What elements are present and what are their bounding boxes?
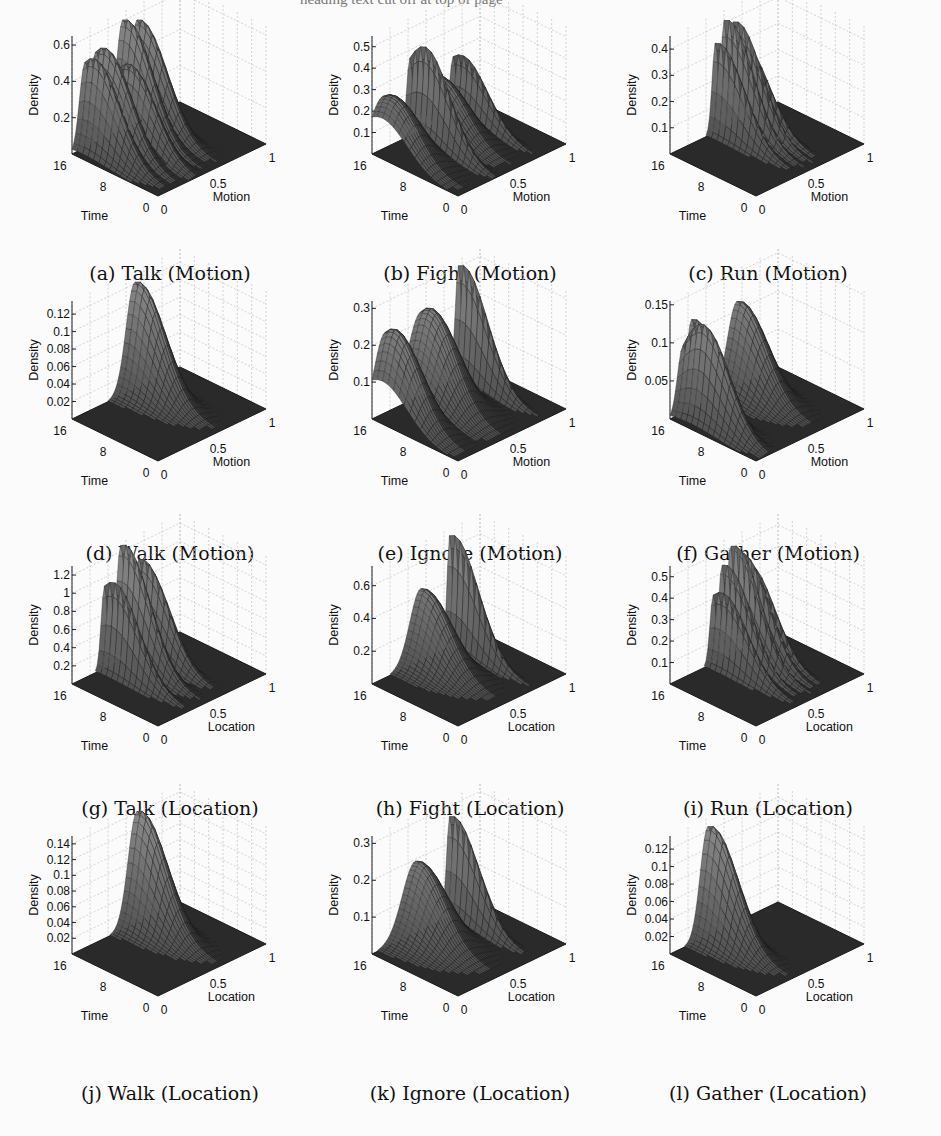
x-tick-label: 0.5 <box>510 707 527 721</box>
x-tick-label: 0 <box>461 203 468 217</box>
z-axis-label: Density <box>327 603 341 645</box>
z-tick-label: 0.2 <box>353 104 370 118</box>
z-tick-label: 0.14 <box>47 837 71 851</box>
x-tick-label: 0.5 <box>808 177 825 191</box>
subplot-b: 0.10.20.30.40.5Density00.51Motion0816Tim… <box>320 30 620 300</box>
z-tick-label: 0.15 <box>645 298 669 312</box>
time-tick-label: 0 <box>443 1001 450 1015</box>
subplot-f: 0.050.10.15Density00.51Motion0816Time(f)… <box>618 295 918 565</box>
z-tick-label: 0.3 <box>353 83 370 97</box>
z-tick-label: 0.6 <box>53 623 70 637</box>
x-tick-label: 0.5 <box>210 707 227 721</box>
header-text: heading text cut off at top of page <box>300 0 503 8</box>
x-tick-label: 0 <box>759 203 766 217</box>
time-axis-label: Time <box>381 209 408 223</box>
x-tick-label: 0.5 <box>510 977 527 991</box>
subplot-h: 0.20.40.6Density00.51Location0816Time(h)… <box>320 560 620 830</box>
z-axis-label: Density <box>625 603 639 645</box>
time-axis-label: Time <box>679 739 706 753</box>
x-axis-label: Motion <box>213 455 251 469</box>
z-tick-label: 0.3 <box>353 301 370 315</box>
x-tick-label: 0 <box>161 468 168 482</box>
x-tick-label: 1 <box>867 951 874 965</box>
z-tick-label: 0.1 <box>651 860 668 874</box>
time-tick-label: 8 <box>400 180 407 194</box>
time-tick-label: 0 <box>741 1001 748 1015</box>
time-tick-label: 16 <box>353 959 367 973</box>
subplot-g: 0.20.40.60.811.2Density00.51Location0816… <box>20 560 320 830</box>
time-axis-label: Time <box>381 1009 408 1023</box>
time-axis-label: Time <box>81 474 108 488</box>
x-tick-label: 1 <box>569 681 576 695</box>
z-tick-label: 0.12 <box>47 853 71 867</box>
subplot-l: 0.020.040.060.080.10.12Density00.51Locat… <box>618 830 918 1100</box>
time-axis-label: Time <box>679 209 706 223</box>
time-tick-label: 0 <box>443 731 450 745</box>
z-tick-label: 0.08 <box>47 884 71 898</box>
subplot-caption: (l) Gather (Location) <box>618 1082 918 1104</box>
time-tick-label: 0 <box>741 466 748 480</box>
z-tick-label: 0.6 <box>353 579 370 593</box>
time-tick-label: 8 <box>100 445 107 459</box>
x-axis-label: Location <box>508 990 555 1004</box>
z-tick-label: 0.12 <box>645 842 669 856</box>
z-axis-label: Density <box>27 338 41 380</box>
time-tick-label: 8 <box>698 980 705 994</box>
time-tick-label: 8 <box>400 445 407 459</box>
surface-plot: 0.050.10.15Density00.51Motion0816Time <box>618 295 918 525</box>
time-axis-label: Time <box>679 474 706 488</box>
time-tick-label: 16 <box>53 424 67 438</box>
z-tick-label: 0.06 <box>47 360 71 374</box>
x-tick-label: 0 <box>461 1003 468 1017</box>
z-tick-label: 0.04 <box>47 916 71 930</box>
z-tick-label: 0.6 <box>53 38 70 52</box>
subplot-caption: (i) Run (Location) <box>618 797 918 819</box>
x-axis-label: Motion <box>513 455 551 469</box>
x-tick-label: 1 <box>269 416 276 430</box>
x-tick-label: 0 <box>759 1003 766 1017</box>
x-axis-label: Location <box>208 990 255 1004</box>
z-tick-label: 0.4 <box>651 42 668 56</box>
time-tick-label: 0 <box>143 731 150 745</box>
x-tick-label: 1 <box>867 416 874 430</box>
time-tick-label: 16 <box>651 689 665 703</box>
subplot-a: 0.20.40.6Density00.51Motion0816Time(a) T… <box>20 30 320 300</box>
z-axis-label: Density <box>327 338 341 380</box>
x-tick-label: 0.5 <box>210 442 227 456</box>
time-tick-label: 16 <box>53 689 67 703</box>
z-tick-label: 0.1 <box>651 656 668 670</box>
x-tick-label: 0 <box>461 468 468 482</box>
time-tick-label: 0 <box>143 1001 150 1015</box>
z-tick-label: 0.08 <box>47 342 71 356</box>
subplot-e: 0.10.20.3Density00.51Motion0816Time(e) I… <box>320 295 620 565</box>
x-tick-label: 0.5 <box>210 177 227 191</box>
time-axis-label: Time <box>381 739 408 753</box>
z-axis-label: Density <box>625 873 639 915</box>
subplot-caption: (c) Run (Motion) <box>618 262 918 284</box>
time-tick-label: 0 <box>741 201 748 215</box>
x-tick-label: 0.5 <box>808 707 825 721</box>
x-tick-label: 1 <box>867 681 874 695</box>
x-axis-label: Location <box>806 720 853 734</box>
time-tick-label: 0 <box>741 731 748 745</box>
z-tick-label: 0.2 <box>53 659 70 673</box>
z-tick-label: 0.3 <box>651 68 668 82</box>
time-tick-label: 0 <box>143 466 150 480</box>
x-axis-label: Motion <box>213 190 251 204</box>
x-tick-label: 1 <box>269 681 276 695</box>
z-tick-label: 0.06 <box>645 895 669 909</box>
x-tick-label: 0.5 <box>510 442 527 456</box>
time-tick-label: 8 <box>100 180 107 194</box>
x-axis-label: Motion <box>811 455 849 469</box>
time-tick-label: 8 <box>698 180 705 194</box>
surface-plot: 0.020.040.060.080.10.120.14Density00.51L… <box>20 830 320 1060</box>
x-tick-label: 0.5 <box>808 977 825 991</box>
z-tick-label: 1.2 <box>53 568 70 582</box>
z-tick-label: 0.1 <box>353 126 370 140</box>
z-tick-label: 0.04 <box>645 912 669 926</box>
time-axis-label: Time <box>81 1009 108 1023</box>
z-axis-label: Density <box>27 73 41 115</box>
z-tick-label: 0.4 <box>651 591 668 605</box>
surface-plot: 0.020.040.060.080.10.12Density00.51Locat… <box>618 830 918 1060</box>
time-tick-label: 16 <box>651 424 665 438</box>
